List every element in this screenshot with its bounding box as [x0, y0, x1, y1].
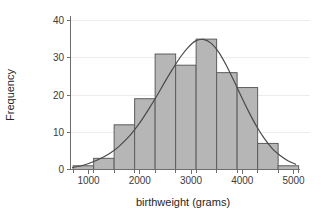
bar-2500 — [155, 54, 176, 169]
x-tick-label: 5000 — [282, 175, 305, 186]
histogram-chart: 010203040 10002000300040005000 birthweig… — [0, 0, 324, 211]
x-axis-title: birthweight (grams) — [136, 196, 230, 208]
x-tick-label: 4000 — [231, 175, 254, 186]
y-axis-title: Frequency — [4, 69, 16, 121]
y-tick-label: 10 — [53, 127, 65, 138]
histogram-bar — [237, 88, 258, 170]
bar-4500 — [258, 143, 279, 169]
y-tick-label: 0 — [59, 164, 65, 175]
bar-3300 — [196, 39, 217, 169]
bar-4100 — [237, 88, 258, 170]
histogram-bar — [258, 143, 279, 169]
chart-canvas: 010203040 10002000300040005000 birthweig… — [0, 0, 324, 211]
histogram-bar — [155, 54, 176, 169]
x-tick-label: 2000 — [129, 175, 152, 186]
bar-2900 — [176, 65, 197, 169]
bar-2100 — [135, 99, 156, 170]
histogram-bar — [217, 73, 238, 170]
x-tick-label: 3000 — [180, 175, 203, 186]
x-tick-label: 1000 — [77, 175, 100, 186]
histogram-bar — [196, 39, 217, 169]
histogram-bar — [114, 125, 135, 170]
histogram-bar — [176, 65, 197, 169]
y-tick-label: 40 — [53, 15, 65, 26]
histogram-bar — [278, 166, 299, 170]
y-tick-label: 30 — [53, 52, 65, 63]
bar-4900 — [278, 166, 299, 170]
bar-1700 — [114, 125, 135, 170]
histogram-bar — [135, 99, 156, 170]
y-tick-label: 20 — [53, 90, 65, 101]
bar-3700 — [217, 73, 238, 170]
